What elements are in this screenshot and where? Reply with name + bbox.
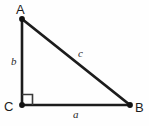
right-triangle-figure: A B C a b c: [0, 0, 149, 126]
side-label-a: a: [73, 109, 79, 120]
side-label-c: c: [78, 48, 83, 59]
vertex-label-b: B: [135, 101, 144, 114]
vertex-label-c: C: [4, 100, 13, 113]
side-c-line: [22, 19, 130, 105]
vertex-dot-c: [19, 102, 25, 108]
vertex-label-a: A: [16, 3, 25, 16]
vertex-dot-b: [127, 102, 133, 108]
side-label-b: b: [11, 56, 17, 67]
